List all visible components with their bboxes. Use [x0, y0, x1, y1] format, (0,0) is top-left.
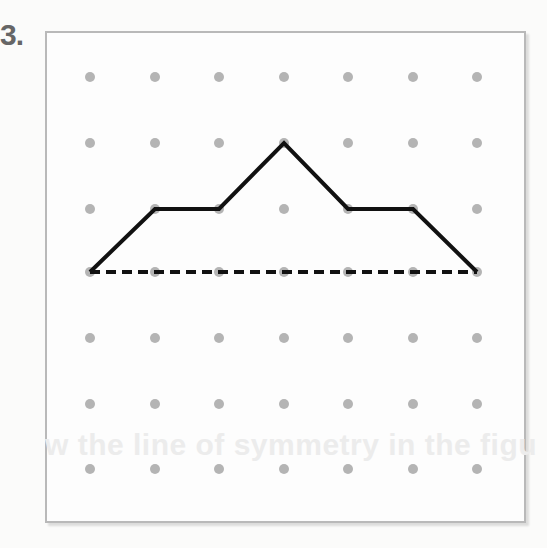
grid-dot — [279, 333, 289, 343]
grid-dot — [279, 72, 289, 82]
grid-dot — [408, 138, 418, 148]
grid-dot — [343, 333, 353, 343]
grid-dot — [150, 399, 160, 409]
grid-dot — [343, 464, 353, 474]
grid-dot — [214, 464, 224, 474]
grid-dot — [85, 72, 95, 82]
dot-grid-figure — [0, 0, 547, 548]
grid-dot — [472, 72, 482, 82]
grid-dot — [150, 138, 160, 148]
grid-dot — [214, 399, 224, 409]
grid-dot — [343, 72, 353, 82]
grid-dot — [472, 138, 482, 148]
grid-dot — [472, 204, 482, 214]
grid-dot — [472, 333, 482, 343]
grid-dot — [408, 333, 418, 343]
grid-dot — [343, 399, 353, 409]
grid-dot — [85, 399, 95, 409]
grid-dot — [472, 464, 482, 474]
grid-dot — [85, 138, 95, 148]
grid-dot — [214, 72, 224, 82]
grid-dot — [85, 464, 95, 474]
grid-dot — [150, 72, 160, 82]
grid-dot — [343, 138, 353, 148]
grid-dot — [279, 464, 289, 474]
grid-dot — [408, 399, 418, 409]
grid-dot — [472, 399, 482, 409]
grid-dot — [85, 204, 95, 214]
grid-dot — [279, 204, 289, 214]
grid-dot — [150, 464, 160, 474]
grid-dot — [214, 138, 224, 148]
grid-dot — [85, 333, 95, 343]
grid-dot — [150, 333, 160, 343]
grid-dot — [408, 72, 418, 82]
grid-dot — [214, 333, 224, 343]
grid-dot — [408, 464, 418, 474]
grid-dot — [279, 399, 289, 409]
